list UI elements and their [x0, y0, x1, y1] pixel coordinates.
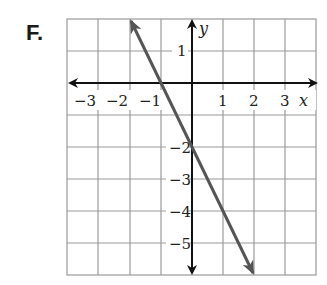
x-tick: −1: [139, 92, 161, 110]
y-tick: −3: [169, 171, 191, 189]
y-tick: 1: [177, 42, 187, 60]
x-tick: 1: [218, 92, 228, 110]
coordinate-graph: −3 −2 −1 1 2 3 x 1 −2 −3 −4 −5 y: [0, 0, 327, 285]
x-tick: 3: [280, 92, 290, 110]
y-axis-label: y: [198, 19, 209, 38]
y-tick: −4: [169, 203, 191, 221]
x-tick: −2: [106, 92, 128, 110]
x-axis-label: x: [299, 91, 308, 110]
x-tick: −3: [74, 92, 96, 110]
y-tick: −5: [169, 235, 191, 253]
x-tick: 2: [249, 92, 259, 110]
